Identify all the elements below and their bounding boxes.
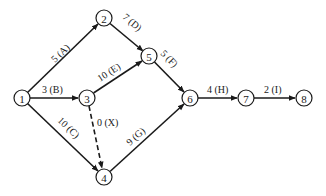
edge-4-6	[110, 104, 184, 172]
node-4: 4	[96, 169, 112, 185]
edge-3-4-dummy	[89, 106, 102, 168]
edge-labels: 5 (A) 3 (B) 10 (C) 7 (D) 10 (E) 0 (X) 5 …	[42, 11, 282, 148]
edge-label-E: 10 (E)	[95, 61, 123, 85]
node-label-3: 3	[84, 93, 90, 105]
edge-label-G: 9 (G)	[124, 125, 148, 148]
edge-label-I: 2 (I)	[264, 84, 282, 96]
node-label-8: 8	[301, 93, 307, 105]
node-label-2: 2	[101, 13, 107, 25]
edge-label-C: 10 (C)	[55, 115, 82, 142]
edge-label-D: 7 (D)	[120, 11, 144, 34]
node-8: 8	[296, 90, 312, 106]
node-label-5: 5	[146, 51, 152, 63]
node-label-1: 1	[19, 93, 25, 105]
node-2: 2	[96, 10, 112, 26]
node-label-6: 6	[187, 93, 193, 105]
edge-label-F: 5 (F)	[158, 48, 180, 70]
edge-label-B: 3 (B)	[42, 84, 63, 96]
node-label-7: 7	[243, 93, 249, 105]
node-3: 3	[79, 90, 95, 106]
network-diagram: 5 (A) 3 (B) 10 (C) 7 (D) 10 (E) 0 (X) 5 …	[0, 0, 326, 196]
node-6: 6	[182, 90, 198, 106]
node-label-4: 4	[101, 172, 107, 184]
node-7: 7	[238, 90, 254, 106]
edge-label-H: 4 (H)	[207, 84, 228, 96]
node-5: 5	[141, 48, 157, 64]
edge-label-A: 5 (A)	[49, 42, 73, 65]
edge-1-4	[28, 104, 99, 172]
edge-label-X: 0 (X)	[97, 117, 118, 129]
node-1: 1	[14, 90, 30, 106]
edge-5-6	[155, 62, 185, 92]
